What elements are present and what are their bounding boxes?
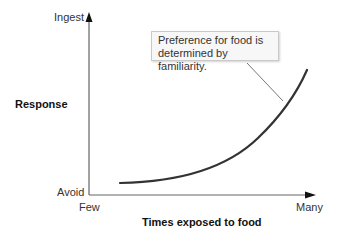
x-left-label: Few	[79, 201, 100, 213]
x-axis-title: Times exposed to food	[142, 216, 262, 228]
x-axis-arrow-icon	[305, 192, 316, 199]
callout-line-2: determined by familiarity.	[158, 47, 278, 73]
preference-curve	[120, 70, 307, 183]
annotation-callout: Preference for food is determined by fam…	[151, 31, 279, 61]
y-bottom-label: Avoid	[57, 186, 84, 198]
x-right-label: Many	[296, 201, 323, 213]
callout-line-1: Preference for food is	[158, 34, 278, 47]
y-top-label: Ingest	[54, 11, 84, 23]
y-axis-title: Response	[15, 98, 68, 110]
y-axis-arrow-icon	[86, 12, 93, 22]
